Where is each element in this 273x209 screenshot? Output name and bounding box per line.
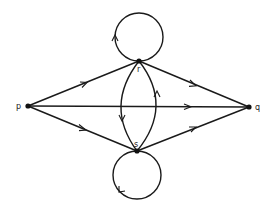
edge-s-q [137, 107, 249, 151]
vertex-p [25, 103, 30, 108]
graph-diagram: p q r s [0, 0, 273, 209]
edge-p-r [28, 61, 139, 106]
vertex-r [136, 58, 141, 63]
label-q: q [255, 103, 260, 112]
label-r: r [137, 65, 141, 74]
label-s: s [134, 140, 138, 149]
vertex-q [246, 104, 251, 109]
vertex-s [134, 148, 139, 153]
label-p: p [16, 102, 21, 111]
loop-r [115, 13, 163, 61]
edge-p-q [28, 106, 249, 107]
